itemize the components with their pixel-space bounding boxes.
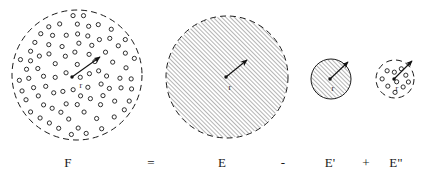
element-dot xyxy=(87,72,91,76)
element-dot xyxy=(39,32,43,36)
element-dot xyxy=(36,66,40,70)
element-dot xyxy=(116,44,120,48)
equation-op-equals: = xyxy=(147,155,155,171)
element-dot xyxy=(24,67,28,71)
element-dot xyxy=(38,116,42,120)
equation-term-EDoublePrime: E" xyxy=(389,155,403,171)
equation-term-E: E xyxy=(218,155,226,171)
element-dot xyxy=(76,32,80,36)
element-dot xyxy=(380,77,384,81)
radius-label-region-E-prime: r xyxy=(332,84,335,93)
element-dot xyxy=(44,84,48,88)
equation-op-plus: + xyxy=(362,155,370,171)
element-dot xyxy=(53,62,57,66)
element-dot xyxy=(385,69,389,73)
element-dot xyxy=(112,115,116,119)
element-dot xyxy=(18,58,22,62)
element-dot xyxy=(86,34,90,38)
element-dot xyxy=(101,94,105,98)
radius-label-region-E: r xyxy=(229,83,232,92)
element-dot xyxy=(404,73,408,77)
element-dot xyxy=(392,70,396,74)
element-dot xyxy=(28,59,32,63)
element-dot xyxy=(20,89,24,93)
element-dot xyxy=(75,22,79,26)
element-dot xyxy=(64,71,68,75)
diagram-svg xyxy=(0,0,421,180)
element-dot xyxy=(28,49,32,53)
equation-term-EPrime: E' xyxy=(325,155,336,171)
radius-label-region-F: r xyxy=(80,81,83,90)
element-dot xyxy=(90,43,94,47)
element-dot xyxy=(103,50,107,54)
element-dot xyxy=(81,14,85,18)
radius-arrow-region-F xyxy=(70,57,100,79)
radius-arrow-line xyxy=(72,57,100,77)
element-dot xyxy=(129,77,133,81)
equation-op-minus: - xyxy=(281,155,286,171)
equation-term-F: F xyxy=(64,155,71,171)
origin-point xyxy=(224,75,227,78)
origin-point xyxy=(328,77,331,80)
element-dot xyxy=(67,117,71,121)
element-dot xyxy=(119,86,123,90)
element-dot xyxy=(118,76,122,80)
element-dot xyxy=(27,76,31,80)
element-dot xyxy=(47,52,51,56)
element-dot xyxy=(75,62,79,66)
element-dot xyxy=(64,33,68,37)
element-dot xyxy=(99,82,103,86)
element-dot xyxy=(78,94,82,98)
element-dot xyxy=(37,54,41,58)
element-dot xyxy=(88,97,92,101)
element-dot xyxy=(84,131,88,135)
element-dot xyxy=(47,121,51,125)
element-dot xyxy=(111,60,115,64)
element-dot xyxy=(95,116,99,120)
element-dot xyxy=(41,74,45,78)
element-dot xyxy=(122,108,126,112)
element-dot xyxy=(63,54,67,58)
radius-arrow-line xyxy=(394,61,412,79)
element-dot xyxy=(36,94,40,98)
element-dot xyxy=(82,110,86,114)
element-dot xyxy=(406,80,410,84)
element-dot xyxy=(98,103,102,107)
element-dot xyxy=(33,40,37,44)
origin-point xyxy=(70,75,73,78)
figure-canvas: F=E-E'+E" rrrr xyxy=(0,0,421,180)
element-dot xyxy=(61,89,65,93)
origin-point xyxy=(392,77,395,80)
element-dot xyxy=(86,85,90,89)
element-dot xyxy=(41,103,45,107)
element-dot xyxy=(132,56,136,60)
element-dot xyxy=(69,132,73,136)
element-dot xyxy=(24,98,28,102)
element-dot xyxy=(124,66,128,70)
element-dot xyxy=(127,99,131,103)
dot-cluster xyxy=(17,14,136,137)
element-dot xyxy=(50,33,54,37)
element-dot xyxy=(59,110,63,114)
element-dot xyxy=(123,51,127,55)
element-dot xyxy=(104,74,108,78)
region-region-F xyxy=(12,10,142,140)
element-dot xyxy=(129,87,133,91)
element-dot xyxy=(47,43,51,47)
element-dot xyxy=(47,25,51,29)
element-dot xyxy=(401,85,405,89)
element-dot xyxy=(113,99,117,103)
element-dot xyxy=(76,126,80,130)
element-dot xyxy=(100,127,104,131)
element-dot xyxy=(87,24,91,28)
element-dot xyxy=(97,37,101,41)
region-layer xyxy=(12,10,414,140)
element-dot xyxy=(71,14,75,18)
element-dot xyxy=(78,75,82,79)
element-dot xyxy=(75,102,79,106)
element-dot xyxy=(123,37,127,41)
element-dot xyxy=(58,22,62,26)
radius-label-region-E-double-prime: r xyxy=(396,84,399,93)
element-dot xyxy=(71,88,75,92)
radius-arrow-region-E-double-prime xyxy=(392,61,412,81)
